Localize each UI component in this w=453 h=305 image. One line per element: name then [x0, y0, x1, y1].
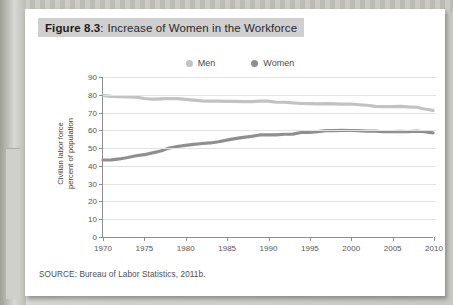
x-axis-tick-mark — [434, 237, 435, 241]
y-axis-tick-label: 60 — [88, 126, 97, 135]
x-axis-tick-mark — [227, 237, 228, 241]
series-line-men — [103, 95, 433, 110]
card-divider — [38, 264, 432, 265]
legend-item-men[interactable]: Men — [186, 58, 216, 68]
figure-title-bar: Figure 8.3:Increase of Women in the Work… — [38, 18, 304, 37]
x-axis-tick-label: 2000 — [342, 244, 360, 253]
gridline — [103, 166, 436, 167]
x-axis-tick-mark — [186, 237, 187, 241]
y-axis-tick-label: 90 — [88, 73, 97, 82]
plot-wrapper: Civilian labor force percent of populati… — [53, 73, 437, 258]
x-axis-tick-mark — [351, 237, 352, 241]
figure-number: Figure 8.3 — [45, 22, 100, 34]
legend-label-men: Men — [198, 58, 216, 68]
gridline — [103, 219, 436, 220]
chart-legend: Men Women — [25, 58, 445, 68]
x-axis-tick-label: 1995 — [301, 244, 319, 253]
x-axis-tick-label: 2005 — [384, 244, 402, 253]
y-axis-tick-label: 30 — [88, 179, 97, 188]
y-axis-tick-mark — [99, 201, 103, 202]
y-axis-tick-mark — [99, 95, 103, 96]
figure-card: Figure 8.3:Increase of Women in the Work… — [25, 9, 445, 296]
y-axis-tick-label: 80 — [88, 90, 97, 99]
source-note: SOURCE: Bureau of Labor Statistics, 2011… — [39, 270, 206, 279]
gridline — [103, 201, 436, 202]
series-line-women — [103, 130, 433, 160]
x-axis-tick-label: 1980 — [177, 244, 195, 253]
x-axis-tick-label: 1975 — [135, 244, 153, 253]
legend-item-women[interactable]: Women — [251, 58, 294, 68]
figure-title-text: Increase of Women in the Workforce — [108, 22, 298, 34]
x-axis-tick-mark — [103, 237, 104, 241]
y-axis-tick-mark — [99, 77, 103, 78]
y-axis-title-line2: percent of population — [65, 118, 74, 189]
gridline — [103, 148, 436, 149]
y-axis-tick-mark — [99, 184, 103, 185]
figure-title-colon: : — [100, 22, 103, 34]
legend-label-women: Women — [263, 58, 294, 68]
plot-area: 0102030405060708090197019751980198519901… — [102, 77, 433, 238]
gridline — [103, 130, 436, 131]
y-axis-tick-label: 70 — [88, 108, 97, 117]
y-axis-tick-label: 10 — [88, 215, 97, 224]
y-axis-tick-mark — [99, 166, 103, 167]
legend-swatch-men-icon — [186, 60, 193, 67]
y-axis-tick-label: 0 — [93, 233, 97, 242]
y-axis-tick-mark — [99, 130, 103, 131]
y-axis-tick-mark — [99, 219, 103, 220]
x-axis-tick-label: 2010 — [425, 244, 443, 253]
x-axis-tick-mark — [144, 237, 145, 241]
x-axis-tick-label: 1970 — [94, 244, 112, 253]
legend-swatch-women-icon — [251, 60, 258, 67]
y-axis-tick-label: 50 — [88, 144, 97, 153]
backdrop-left-block — [6, 148, 20, 299]
series-svg — [103, 77, 433, 237]
x-axis-tick-label: 1990 — [260, 244, 278, 253]
y-axis-tick-mark — [99, 113, 103, 114]
gridline — [103, 95, 436, 96]
y-axis-title: Civilian labor force percent of populati… — [52, 73, 78, 233]
x-axis-tick-mark — [393, 237, 394, 241]
y-axis-tick-label: 40 — [88, 161, 97, 170]
y-axis-title-line1: Civilian labor force — [56, 122, 65, 184]
gridline — [103, 113, 436, 114]
y-axis-tick-mark — [99, 148, 103, 149]
x-axis-tick-label: 1985 — [218, 244, 236, 253]
x-axis-tick-mark — [269, 237, 270, 241]
gridline — [103, 184, 436, 185]
y-axis-tick-label: 20 — [88, 197, 97, 206]
x-axis-tick-mark — [310, 237, 311, 241]
gridline — [103, 77, 436, 78]
